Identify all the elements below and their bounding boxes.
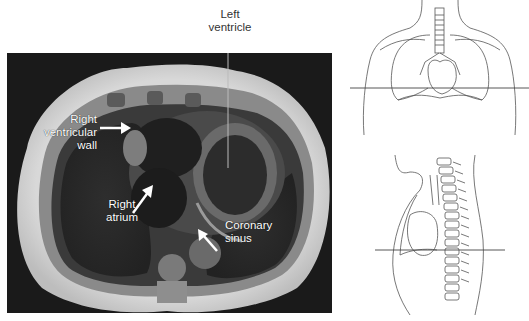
label-line: ventricle bbox=[200, 21, 260, 34]
label-line: ventricular bbox=[27, 126, 97, 139]
label-coronary-sinus: Coronary sinus bbox=[225, 219, 285, 245]
sagittal-torso-diagram bbox=[375, 150, 505, 321]
label-right-ventricular-wall: Right ventricular wall bbox=[27, 113, 97, 152]
label-line: wall bbox=[27, 139, 97, 152]
label-line: Coronary bbox=[225, 219, 285, 232]
label-line: atrium bbox=[102, 211, 142, 224]
label-line: Right bbox=[102, 198, 142, 211]
label-line: sinus bbox=[225, 232, 285, 245]
mri-anatomy-drawing bbox=[7, 53, 332, 313]
label-line: Right bbox=[27, 113, 97, 126]
label-right-atrium: Right atrium bbox=[102, 198, 142, 224]
label-line: Left bbox=[200, 8, 260, 21]
frontal-torso-diagram bbox=[350, 0, 529, 140]
mri-axial-image: Right ventricular wall Right atrium Coro… bbox=[7, 53, 332, 313]
label-left-ventricle: Left ventricle bbox=[200, 8, 260, 34]
